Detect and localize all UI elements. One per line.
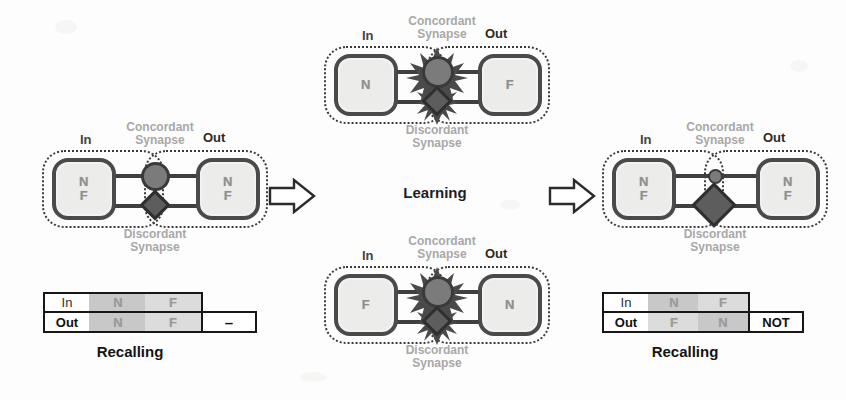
training-bottom-concordant-label-line2: Synapse xyxy=(400,248,484,261)
training-pair-n-f: In Out Concordant Synapse Discordant Syn… xyxy=(322,28,552,138)
panel-before-discordant-label-line2: Synapse xyxy=(112,241,198,254)
after-table-out-cell-0: F xyxy=(648,311,700,333)
before-table-tail-cell: – xyxy=(201,311,257,333)
arrow-learning-to-after xyxy=(548,178,596,214)
training-top-in-neuron: N xyxy=(334,54,398,116)
after-table-caption: Recalling xyxy=(615,343,755,360)
training-top-out-neuron: F xyxy=(478,54,542,116)
before-table-out-cell-1: F xyxy=(145,311,203,333)
training-top-concordant-label-line2: Synapse xyxy=(400,28,484,41)
training-top-concordant-synapse xyxy=(422,56,454,88)
training-bottom-out-value-0: N xyxy=(505,298,515,312)
arrow-before-to-learning xyxy=(268,178,316,214)
panel-before-out-label: Out xyxy=(203,130,225,145)
scan-speckle xyxy=(300,372,326,382)
learning-stage-label: Learning xyxy=(390,184,480,201)
before-table-out-cell-0: N xyxy=(89,311,147,333)
before-out-value-0: N xyxy=(223,175,233,189)
after-table-out-rowlabel: Out xyxy=(602,311,650,333)
training-bottom-out-label: Out xyxy=(485,246,507,261)
after-out-label: Out xyxy=(763,130,785,145)
training-bottom-in-value-0: F xyxy=(362,298,370,312)
training-bottom-in-neuron: F xyxy=(334,274,398,336)
scan-speckle xyxy=(500,200,520,210)
after-table-tail-cell: NOT xyxy=(748,311,804,333)
training-bottom-in-label: In xyxy=(362,248,374,263)
before-table-in-cell-0: N xyxy=(89,292,147,313)
before-table-out-rowlabel: Out xyxy=(43,311,91,333)
before-table-in-cell-1: F xyxy=(145,292,203,313)
after-table-in-row: In N F xyxy=(602,292,748,313)
training-pair-f-n: In Out Concordant Synapse Discordant Syn… xyxy=(322,248,552,358)
after-table-out-cell-1: N xyxy=(698,311,750,333)
before-out-neuron: N F xyxy=(196,158,260,220)
before-in-neuron: N F xyxy=(52,158,116,220)
after-concordant-label-line2: Synapse xyxy=(678,134,762,147)
training-top-in-label: In xyxy=(362,28,374,43)
after-out-neuron: N F xyxy=(756,158,820,220)
after-out-value-0: N xyxy=(783,175,793,189)
after-table-in-cell-1: F xyxy=(698,292,750,313)
before-learning-network: In Out Concordant Synapse Discordant Syn… xyxy=(40,132,270,242)
before-concordant-synapse xyxy=(141,162,170,191)
panel-before-in-label: In xyxy=(80,132,92,147)
after-table-in-rowlabel: In xyxy=(602,292,650,313)
after-out-value-1: F xyxy=(784,189,792,203)
training-top-out-value-0: F xyxy=(506,78,514,92)
after-in-value-0: N xyxy=(639,175,649,189)
scan-speckle xyxy=(790,60,808,72)
before-in-value-1: F xyxy=(80,189,88,203)
scan-speckle xyxy=(55,20,77,34)
after-in-neuron: N F xyxy=(612,158,676,220)
after-in-value-1: F xyxy=(640,189,648,203)
after-concordant-synapse xyxy=(708,169,723,184)
after-table-in-cell-0: N xyxy=(648,292,700,313)
training-top-discordant-label-line2: Synapse xyxy=(394,137,480,150)
before-table-in-rowlabel: In xyxy=(43,292,91,313)
before-in-value-0: N xyxy=(79,175,89,189)
training-top-out-label: Out xyxy=(485,26,507,41)
before-table-out-row: Out N F – xyxy=(43,311,255,333)
after-learning-network: In Out Concordant Synapse Discordant Syn… xyxy=(600,132,830,242)
training-bottom-concordant-synapse xyxy=(422,276,454,308)
training-bottom-out-neuron: N xyxy=(478,274,542,336)
after-discordant-label-line2: Synapse xyxy=(672,241,758,254)
training-bottom-discordant-label-line2: Synapse xyxy=(394,357,480,370)
after-table-out-row: Out F N NOT xyxy=(602,311,802,333)
training-top-in-value-0: N xyxy=(361,78,371,92)
after-in-label: In xyxy=(640,132,652,147)
before-table-in-row: In N F xyxy=(43,292,201,313)
before-table-caption: Recalling xyxy=(60,343,200,360)
panel-before-concordant-label-line2: Synapse xyxy=(118,134,202,147)
before-out-value-1: F xyxy=(224,189,232,203)
